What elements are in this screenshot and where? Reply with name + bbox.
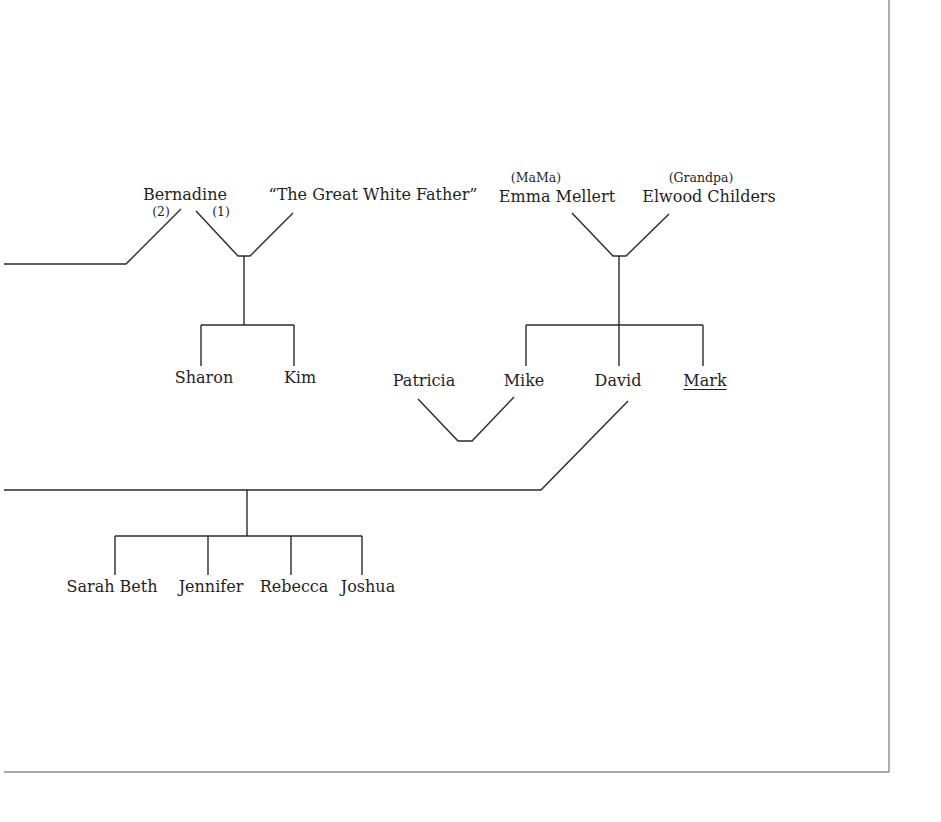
marriage-order-2: (2) bbox=[152, 206, 170, 219]
person-patricia: Patricia bbox=[393, 373, 455, 389]
marriage-order-1: (1) bbox=[212, 206, 230, 219]
person-mike: Mike bbox=[504, 373, 545, 389]
person-david: David bbox=[595, 373, 642, 389]
marriage-v-emma-elwood bbox=[572, 213, 669, 256]
person-joshua: Joshua bbox=[341, 579, 395, 595]
person-sarah-beth: Sarah Beth bbox=[66, 579, 157, 595]
person-emma-mellert: Emma Mellert bbox=[499, 189, 615, 205]
person-great-white-father: “The Great White Father” bbox=[268, 187, 477, 203]
family-tree-diagram: Bernadine (2) (1) “The Great White Fathe… bbox=[0, 0, 941, 822]
person-mark: Mark bbox=[683, 373, 726, 389]
marriage-line-david bbox=[4, 401, 628, 490]
nickname-mama: (MaMa) bbox=[511, 172, 561, 185]
person-rebecca: Rebecca bbox=[260, 579, 329, 595]
person-kim: Kim bbox=[284, 370, 316, 386]
connector-lines bbox=[0, 0, 941, 822]
person-bernadine: Bernadine bbox=[143, 187, 227, 203]
marriage-v-bernadine-1 bbox=[196, 211, 293, 256]
person-jennifer: Jennifer bbox=[179, 579, 244, 595]
marriage-v-patricia-mike bbox=[418, 397, 514, 441]
nickname-grandpa: (Grandpa) bbox=[669, 172, 734, 185]
person-sharon: Sharon bbox=[175, 370, 233, 386]
person-elwood-childers: Elwood Childers bbox=[642, 189, 775, 205]
